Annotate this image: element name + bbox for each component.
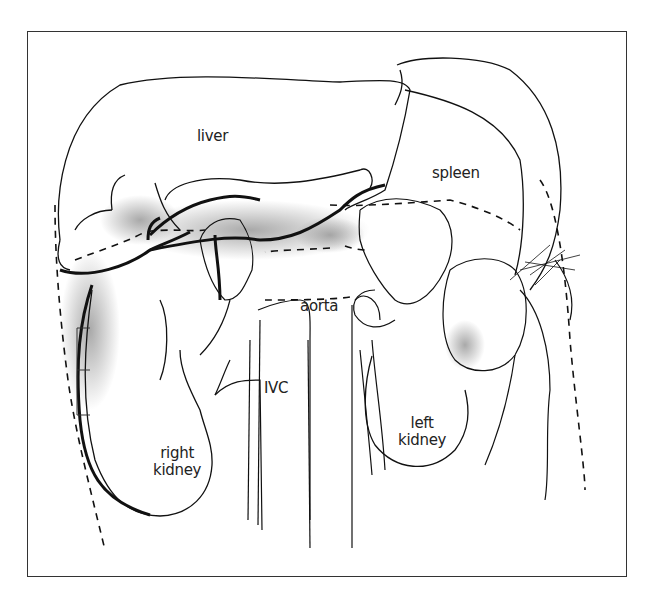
label-left-kidney: left kidney [398, 415, 446, 449]
label-right-kidney: right kidney [153, 445, 201, 479]
label-liver: liver [197, 128, 228, 145]
label-right-kidney-line2: kidney [153, 462, 201, 479]
label-spleen: spleen [432, 165, 480, 182]
label-right-kidney-line1: right [153, 445, 201, 462]
shading [60, 195, 485, 410]
label-ivc: IVC [264, 380, 288, 397]
kidney-outlines [85, 290, 468, 516]
colon-outline [443, 259, 572, 500]
great-vessels [215, 296, 385, 548]
label-left-kidney-line1: left [398, 415, 446, 432]
label-left-kidney-line2: kidney [398, 432, 446, 449]
label-aorta: aorta [300, 298, 338, 315]
